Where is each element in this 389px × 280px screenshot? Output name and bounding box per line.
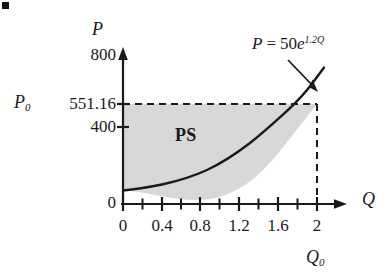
curve-equation-label: P=50e1.2Q: [252, 35, 324, 52]
q-naught-label: Q0: [306, 248, 325, 266]
equation-base: e: [297, 34, 305, 53]
x-tick-label-2: 2: [302, 217, 332, 234]
equation-equals: =: [266, 34, 276, 53]
p-naught-subscript: 0: [25, 101, 31, 113]
x-tick-label-0.8: 0.8: [182, 217, 218, 234]
equation-lhs: P: [252, 34, 262, 53]
x-tick-label-1.6: 1.6: [260, 217, 296, 234]
x-tick-label-0.4: 0.4: [144, 217, 180, 234]
y-tick-label-0: 0: [90, 194, 116, 211]
equation-exponent-coefficient: 1.2: [305, 34, 318, 45]
shaded-region-label: PS: [175, 126, 197, 144]
x-tick-label-1.2: 1.2: [221, 217, 257, 234]
y-tick-label-800: 800: [68, 46, 116, 63]
x-axis-title: Q: [362, 190, 375, 208]
figure-container: P Q 800 551.16 P0 400 0 0 0.4 0.8 1.2 1.…: [0, 0, 389, 280]
p-naught-label: P0: [14, 93, 31, 111]
p-naught-letter: P: [14, 92, 25, 112]
q-naught-letter: Q: [306, 247, 319, 267]
equation-annotation-arrow-shaft: [288, 60, 314, 87]
y-axis-title: P: [92, 20, 103, 38]
y-tick-label-551: 551.16: [44, 95, 116, 112]
x-tick-label-0: 0: [108, 217, 138, 234]
q-naught-subscript: 0: [319, 256, 325, 268]
y-tick-label-400: 400: [68, 118, 116, 135]
equation-exponent-variable: Q: [317, 34, 324, 45]
x-axis-arrowhead: [334, 199, 347, 209]
y-axis-arrowhead: [118, 47, 128, 60]
equation-coefficient: 50: [280, 34, 297, 53]
